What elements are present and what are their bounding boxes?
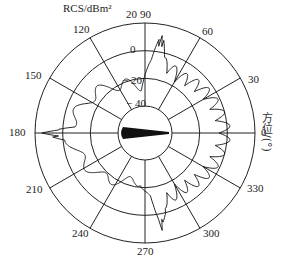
center-cone-marker [121,127,169,139]
polar-rcs-chart [0,0,292,264]
radial-tick-minus40: − 40 [126,98,146,109]
angle-tick-300: 300 [203,228,220,239]
angle-tick-30: 30 [248,74,259,85]
angular-axis-label: 方位/(°) [258,112,274,152]
radial-tick-0: 0 [130,44,136,55]
chart-title: RCS/dBm² [63,3,112,14]
angle-tick-240: 240 [72,228,89,239]
angle-tick-90: 90 [140,9,151,20]
angle-tick-180: 180 [9,127,26,138]
angle-tick-270: 270 [137,246,154,257]
angle-tick-210: 210 [26,184,43,195]
radial-tick-20: 20 [126,9,137,20]
radial-tick-minus20: − 20 [122,75,142,86]
angle-tick-330: 330 [247,183,264,194]
angle-tick-60: 60 [202,26,213,37]
angle-tick-120: 120 [73,24,90,35]
angle-tick-150: 150 [25,70,42,81]
